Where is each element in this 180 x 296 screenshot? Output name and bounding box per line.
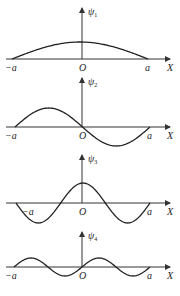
tick-label-minus-a: −a [22,206,34,217]
y-axis-label-subscript: 2 [94,82,97,88]
panel-psi2: ψ2−aOaX [5,76,174,146]
tick-label-a: a [147,270,152,281]
x-axis-label: X [166,206,174,217]
y-axis-label: ψ4 [88,230,97,242]
wavefunction-curve-psi1 [12,42,148,59]
x-axis-label: X [166,62,174,73]
y-axis-label-subscript: 3 [94,159,97,165]
panel-psi3: ψ3−aOaX [6,153,174,223]
x-axis-label: X [166,270,174,281]
tick-label-a: a [147,206,152,217]
tick-label-origin: O [79,62,86,73]
y-axis-label: ψ2 [88,76,97,88]
panel-psi4: ψ4−aOaX [5,230,174,281]
tick-label-origin: O [79,130,86,141]
y-axis-label: ψ3 [88,153,97,165]
tick-label-minus-a: −a [5,130,17,141]
y-axis-label: ψ1 [88,6,97,18]
x-axis-label: X [166,130,174,141]
y-axis-label-subscript: 4 [94,236,97,242]
tick-label-minus-a: −a [5,62,17,73]
y-axis-label-subscript: 1 [94,12,97,18]
wavefunction-figure: ψ1−aOaXψ2−aOaXψ3−aOaXψ4−aOaX [0,0,180,296]
tick-label-minus-a: −a [5,270,17,281]
tick-label-origin: O [79,206,86,217]
panel-psi1: ψ1−aOaX [5,6,174,73]
tick-label-origin: O [79,270,86,281]
tick-label-a: a [145,62,150,73]
tick-label-a: a [147,130,152,141]
